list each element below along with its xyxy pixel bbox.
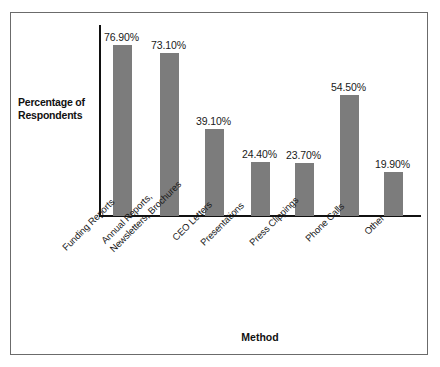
x-axis-title: Method <box>99 331 421 343</box>
bar-other[interactable] <box>384 172 403 216</box>
y-axis-title: Percentage of Respondents <box>18 96 98 122</box>
bar-press-clippings[interactable] <box>295 163 314 216</box>
bar-value-label-funding-reports: 76.90% <box>104 31 139 43</box>
plot-area <box>99 25 421 216</box>
y-axis-title-line2: Respondents <box>18 109 82 121</box>
bar-value-label-annual-reports: 73.10% <box>151 39 186 51</box>
bar-value-label-other: 19.90% <box>375 158 410 170</box>
bar-value-label-press-clippings: 23.70% <box>286 149 321 161</box>
bar-presentations[interactable] <box>251 162 270 216</box>
bar-value-label-presentations: 24.40% <box>242 148 277 160</box>
y-axis-title-line1: Percentage of <box>18 96 85 108</box>
chart-figure: Percentage of Respondents 76.90% 73.10% … <box>0 0 440 367</box>
bar-funding-reports[interactable] <box>113 45 132 216</box>
bar-value-label-ceo-letters: 39.10% <box>196 115 231 127</box>
bar-phone-calls[interactable] <box>340 95 359 216</box>
bar-value-label-phone-calls: 54.50% <box>331 81 366 93</box>
